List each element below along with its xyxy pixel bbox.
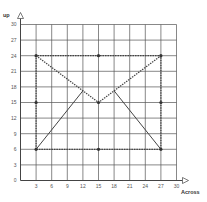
x-axis-label: Across	[181, 189, 200, 195]
point-marker	[159, 148, 162, 151]
axes	[18, 13, 189, 184]
x-tick-label: 30	[174, 183, 180, 189]
y-axis-label: up	[3, 12, 10, 18]
y-tick-label: 15	[11, 99, 17, 105]
y-tick-label: 27	[11, 37, 17, 43]
x-tick-label: 24	[143, 183, 149, 189]
point-marker	[159, 101, 162, 104]
y-tick-label: 3	[14, 162, 17, 168]
y-tick-label: 18	[11, 84, 17, 90]
y-tick-label: 0	[14, 177, 17, 183]
point-marker	[35, 148, 38, 151]
y-tick-label: 9	[14, 131, 17, 137]
y-tick-label: 12	[11, 115, 17, 121]
series-left-solid	[36, 91, 83, 150]
x-tick-label: 12	[80, 183, 86, 189]
y-tick-label: 24	[11, 53, 17, 59]
series-right-solid	[114, 91, 161, 150]
x-tick-label: 9	[66, 183, 69, 189]
y-axis-arrow-icon	[18, 13, 24, 19]
x-tick-label: 15	[96, 183, 102, 189]
point-marker	[159, 54, 162, 57]
y-tick-label: 6	[14, 146, 17, 152]
point-marker	[97, 148, 100, 151]
x-tick-label: 3	[35, 183, 38, 189]
y-tick-label: 21	[11, 68, 17, 74]
y-tick-label: 30	[11, 21, 17, 27]
x-tick-label: 18	[111, 183, 117, 189]
point-marker	[35, 101, 38, 104]
point-marker	[35, 54, 38, 57]
x-axis-arrow-icon	[183, 178, 189, 184]
point-marker	[97, 101, 100, 104]
chart: 36912151821242730036912151821242730 up A…	[0, 0, 207, 202]
x-tick-label: 21	[127, 183, 133, 189]
point-marker	[97, 54, 100, 57]
x-tick-label: 27	[158, 183, 164, 189]
x-tick-label: 6	[50, 183, 53, 189]
